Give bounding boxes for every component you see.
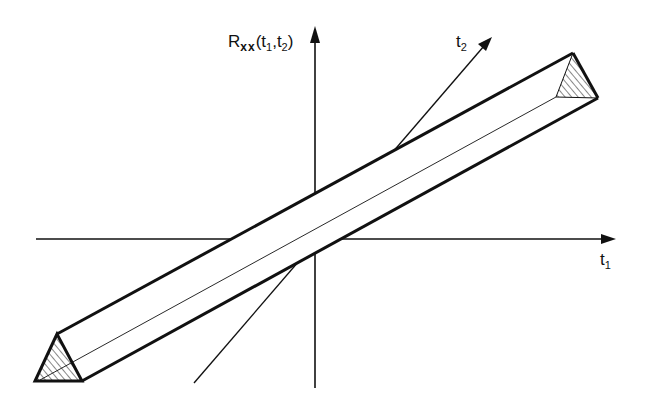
t2-arrowhead-icon [478,37,492,51]
vertical-axis-label: Rxx(t1,t2) [228,33,293,53]
vertical-arrowhead-icon [310,26,320,43]
correlation-diagram [0,0,649,411]
t2-axis-label: t2 [456,33,467,53]
t1-axis-label: t1 [600,251,611,271]
correlation-ridge [35,53,598,381]
t1-arrowhead-icon [601,234,616,244]
